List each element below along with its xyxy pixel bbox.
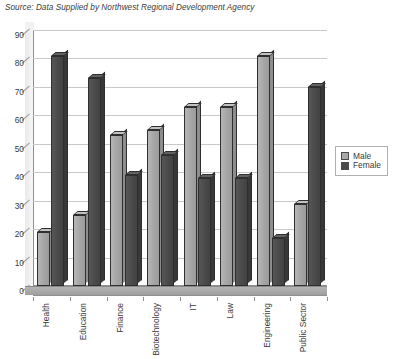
legend-item-female[interactable]: Female [341,161,381,169]
bar-male-public-sector [294,204,307,286]
x-axis-tick [327,297,328,301]
bar-front-face [220,107,233,286]
bar-side-face [174,149,178,283]
bar-male-education [73,215,86,286]
bar-male-engineering [257,56,270,286]
bar-male-law [220,107,233,286]
bar-male-finance [110,135,123,286]
bar-front-face [147,130,160,286]
bar-female-it [198,178,211,286]
bar-front-face [51,56,64,286]
legend-item-male[interactable]: Male [341,152,381,160]
source-note: Source: Data Supplied by Northwest Regio… [5,3,254,12]
bar-front-face [37,232,50,286]
bar-front-face [257,56,270,286]
bar-side-face [101,72,105,283]
male-swatch-icon [341,152,349,160]
bar-front-face [88,78,101,286]
x-axis-tick [217,297,218,301]
bar-front-face [198,178,211,286]
bar-front-face [184,107,197,286]
x-axis-label-finance: Finance [116,303,124,333]
bar-front-face [272,238,285,286]
bar-front-face [308,87,321,286]
x-axis-label-health: Health [42,303,50,327]
bar-front-face [235,178,248,286]
legend-label: Male [353,152,371,160]
bar-male-biotechnology [147,130,160,286]
bar-side-face [211,172,215,283]
x-axis-label-law: Law [226,303,234,318]
legend: MaleFemale [335,146,388,176]
bar-side-face [248,172,252,283]
bar-front-face [294,204,307,286]
x-axis-tick [143,297,144,301]
x-axis-tick [107,297,108,301]
x-axis-tick [290,297,291,301]
x-axis-label-education: Education [79,303,87,340]
bar-female-finance [125,175,138,286]
bar-side-face [64,49,68,283]
x-axis: HealthEducationFinanceBiotechnologyITLaw… [0,297,401,359]
x-axis-label-biotechnology: Biotechnology [152,303,160,356]
x-axis-label-engineering: Engineering [263,303,271,348]
bar-side-face [138,169,142,283]
bar-female-law [235,178,248,286]
bar-side-face [285,232,289,283]
x-axis-tick [180,297,181,301]
legend-label: Female [353,161,381,169]
x-axis-tick [254,297,255,301]
bar-front-face [161,155,174,286]
bar-female-health [51,56,64,286]
bar-side-face [321,81,325,283]
bar-front-face [125,175,138,286]
x-axis-tick [70,297,71,301]
bar-female-public-sector [308,87,321,286]
bar-front-face [73,215,86,286]
bar-female-engineering [272,238,285,286]
bar-chart: 0102030405060708090 HealthEducationFinan… [0,16,401,354]
x-axis-label-public-sector: Public Sector [299,303,307,352]
bar-female-biotechnology [161,155,174,286]
bar-male-it [184,107,197,286]
x-axis-label-it: IT [189,303,197,310]
bar-male-health [37,232,50,286]
bar-front-face [110,135,123,286]
female-swatch-icon [341,162,349,170]
bar-female-education [88,78,101,286]
x-axis-tick [33,297,34,301]
